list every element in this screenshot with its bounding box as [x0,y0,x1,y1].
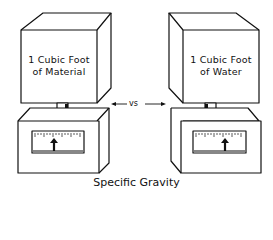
right-scale [171,108,261,173]
right-block-label: 1 Cubic Foot of Water [183,54,259,78]
left-block-line1: 1 Cubic Foot [21,54,97,66]
diagram-caption: Specific Gravity [0,176,273,189]
right-block-line2: of Water [183,66,259,78]
right-block-line1: 1 Cubic Foot [183,54,259,66]
comparison-label: vs [129,99,138,108]
left-block-line2: of Material [21,66,97,78]
left-scale [18,108,109,173]
vs-double-arrow-icon [111,102,166,106]
left-block-label: 1 Cubic Foot of Material [21,54,97,78]
